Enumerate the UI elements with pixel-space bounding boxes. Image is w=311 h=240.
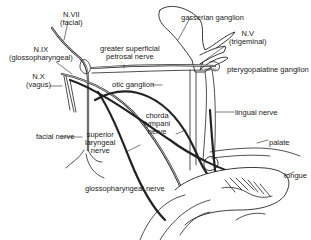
label-chorda-tympani-nerve: chorda tympani nerve: [144, 112, 170, 136]
label-n10: N.X (vagus): [26, 73, 51, 89]
label-n9-name: (glossopharyngeal): [9, 54, 73, 62]
label-n9: N.IX (glossopharyngeal): [9, 46, 73, 62]
label-n10-name: (vagus): [26, 81, 51, 89]
label-glossopharyngeal-nerve: glossopharyngeal nerve: [85, 185, 165, 193]
label-gsp-line2: petrosal nerve: [100, 53, 160, 61]
label-facial-nerve: facial nerve: [36, 133, 74, 141]
palate-shape: [210, 148, 300, 156]
label-gasserian-ganglion: gasserian ganglion: [181, 14, 244, 22]
label-greater-superficial-petrosal-nerve: greater superficial petrosal nerve: [100, 45, 160, 61]
label-tongue: tongue: [284, 172, 307, 180]
label-n5-name: (trigeminal): [229, 38, 267, 46]
label-sup-lar-line3: nerve: [85, 147, 115, 155]
label-otic-ganglion: otic ganglion: [112, 81, 154, 89]
label-n5: N.V (trigeminal): [229, 30, 267, 46]
nerve-diagram: N.VII (facial) N.IX (glossopharyngeal) N…: [0, 0, 311, 240]
label-pterygopalatine-ganglion: pterygopalatine ganglion: [227, 66, 309, 74]
label-n7-name: (facial): [60, 19, 83, 27]
label-chorda-line3: nerve: [144, 128, 170, 136]
label-palate: palate: [269, 139, 289, 147]
label-lingual-nerve: lingual nerve: [235, 109, 278, 117]
label-superior-laryngeal-nerve: superior laryngeal nerve: [85, 131, 115, 155]
label-n7: N.VII (facial): [60, 11, 83, 27]
